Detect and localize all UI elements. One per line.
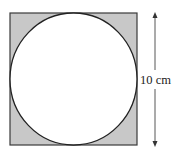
arrow-down-icon [153, 141, 158, 147]
arrow-up-icon [153, 12, 158, 18]
inscribed-circle-diagram: 10 cm [0, 0, 184, 154]
dimension-label: 10 cm [140, 73, 171, 87]
inscribed-circle [10, 13, 137, 145]
